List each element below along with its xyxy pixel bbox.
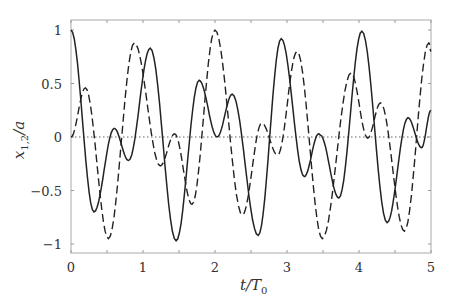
y-axis-label: x1,2/a <box>10 121 30 159</box>
x-axis-label: t/T0 <box>240 276 267 296</box>
series-x1-solid-line <box>71 30 431 241</box>
x-axis-label-main: t/T <box>240 276 261 294</box>
y-axis-label-tail: /a <box>10 121 28 135</box>
y-tick-label: −1 <box>22 237 62 252</box>
y-tick-label: 0.5 <box>22 76 62 91</box>
x-tick-label: 2 <box>211 260 219 275</box>
x-tick-label: 5 <box>427 260 435 275</box>
y-axis-label-main: x <box>10 151 28 159</box>
y-axis-label-sub: 1,2 <box>19 135 30 151</box>
line-chart <box>0 0 451 303</box>
y-tick-label: 1 <box>22 23 62 38</box>
y-tick-label: −0.5 <box>22 183 62 198</box>
x-tick-label: 1 <box>139 260 147 275</box>
x-tick-label: 4 <box>355 260 363 275</box>
x-axis-label-sub: 0 <box>261 285 267 296</box>
x-tick-label: 3 <box>283 260 291 275</box>
x-tick-label: 0 <box>67 260 75 275</box>
